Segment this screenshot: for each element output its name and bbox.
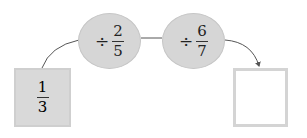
operation-fraction-2: 6 7 — [196, 24, 208, 59]
operation-node-1: ÷ 2 5 — [78, 13, 141, 69]
operation-fraction-1: 2 5 — [112, 24, 124, 59]
divide-sign: ÷ — [95, 33, 109, 50]
op1-numerator: 2 — [113, 24, 123, 39]
operation-node-2: ÷ 6 7 — [162, 13, 225, 69]
start-numerator: 1 — [38, 80, 48, 95]
op2-numerator: 6 — [197, 24, 207, 39]
start-fraction: 1 3 — [37, 80, 49, 115]
op2-denominator: 7 — [197, 44, 207, 59]
result-answer-box[interactable] — [233, 68, 288, 127]
divide-sign: ÷ — [179, 33, 193, 50]
start-denominator: 3 — [38, 100, 48, 115]
start-value-box: 1 3 — [14, 68, 71, 127]
op1-denominator: 5 — [113, 44, 123, 59]
